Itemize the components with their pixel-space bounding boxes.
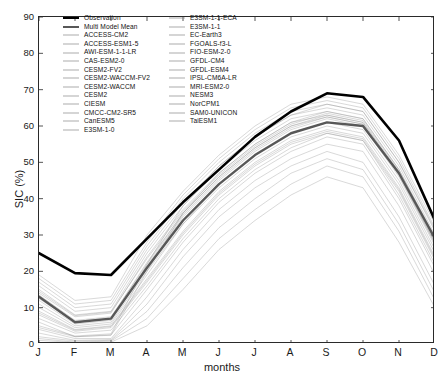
x-axis-tick-label: S bbox=[316, 346, 336, 358]
series-line bbox=[39, 113, 434, 315]
series-line bbox=[39, 137, 434, 337]
series-line bbox=[39, 126, 434, 326]
y-axis-tick-label: 20 bbox=[12, 265, 34, 276]
y-axis-tick-label: 80 bbox=[12, 47, 34, 58]
x-axis-tick-label: M bbox=[172, 346, 192, 358]
series-line bbox=[39, 159, 434, 341]
x-axis-tick-label: J bbox=[244, 346, 264, 358]
series-line bbox=[39, 166, 434, 342]
x-axis-tick-label: M bbox=[100, 346, 120, 358]
series-line bbox=[39, 117, 434, 322]
chart-lines bbox=[39, 17, 434, 343]
y-axis-tick-label: 50 bbox=[12, 156, 34, 167]
x-axis-tick-label: D bbox=[424, 346, 444, 358]
sic-seasonal-cycle-chart: SIC (%) 0102030405060708090 JFMAMJJASOND… bbox=[0, 0, 444, 378]
series-line bbox=[39, 130, 434, 330]
x-axis-tick-label: J bbox=[28, 346, 48, 358]
series-line bbox=[39, 177, 434, 343]
y-axis-tick-label: 70 bbox=[12, 83, 34, 94]
series-line bbox=[39, 108, 434, 311]
series-line bbox=[39, 115, 434, 317]
series-line bbox=[39, 111, 434, 336]
plot-area bbox=[38, 16, 434, 343]
y-axis-tick-label: 60 bbox=[12, 120, 34, 131]
series-line bbox=[39, 97, 434, 300]
x-axis-tick-label: F bbox=[64, 346, 84, 358]
y-axis-tick-label: 10 bbox=[12, 301, 34, 312]
y-axis-tick-label: 30 bbox=[12, 229, 34, 240]
x-axis-tick-label: A bbox=[280, 346, 300, 358]
x-axis-title: months bbox=[0, 361, 444, 373]
x-axis-tick-label: O bbox=[352, 346, 372, 358]
series-line bbox=[39, 117, 434, 322]
x-axis-tick-label: N bbox=[388, 346, 408, 358]
x-axis-tick-label: J bbox=[208, 346, 228, 358]
series-line bbox=[39, 133, 434, 333]
y-axis-tick-label: 40 bbox=[12, 192, 34, 203]
x-axis-tick-label: A bbox=[136, 346, 156, 358]
y-axis-tick-label: 90 bbox=[12, 11, 34, 22]
series-line bbox=[39, 151, 434, 340]
